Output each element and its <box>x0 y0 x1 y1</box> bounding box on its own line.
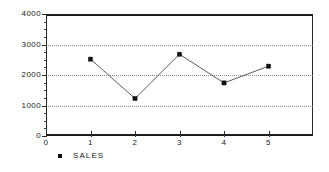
series-markers-sales <box>88 52 270 100</box>
data-series-sales <box>0 0 329 172</box>
data-point-marker <box>222 81 226 85</box>
data-point-marker <box>177 52 181 56</box>
legend-marker-icon <box>58 154 62 158</box>
legend-label-sales: SALES <box>73 152 104 160</box>
data-point-marker <box>266 64 270 68</box>
data-point-marker <box>133 96 137 100</box>
chart-legend: SALES <box>58 152 104 160</box>
data-point-marker <box>88 57 92 61</box>
chart-figure: 4000 3000 2000 1000 0 0 1 2 3 4 5 SALES <box>0 0 329 172</box>
series-line-sales <box>91 54 269 98</box>
